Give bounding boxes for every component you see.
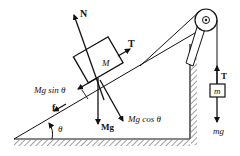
label-weight-hanging: mg [213, 126, 224, 136]
physics-diagram: N T M Mg sin θ Mg Mg cos θ f θ m T mg [0, 0, 240, 156]
block-M [73, 37, 123, 83]
label-mass-M: M [101, 58, 110, 68]
tension-block-arrow [118, 49, 130, 56]
hanging-block: m [210, 84, 225, 97]
angle-arc [49, 123, 53, 139]
label-mg-sin: Mg sin θ [33, 85, 66, 95]
label-mg-cos: Mg cos θ [127, 114, 161, 124]
label-angle: θ [58, 124, 63, 134]
label-weight-block: Mg [101, 122, 114, 132]
label-friction: f [52, 102, 56, 113]
label-normal: N [80, 8, 88, 19]
mg-cos-arrow [100, 80, 123, 121]
label-mass-m: m [214, 86, 221, 96]
label-tension-block: T [128, 38, 135, 49]
label-tension-hanging: T [221, 71, 227, 81]
ground [14, 139, 190, 146]
